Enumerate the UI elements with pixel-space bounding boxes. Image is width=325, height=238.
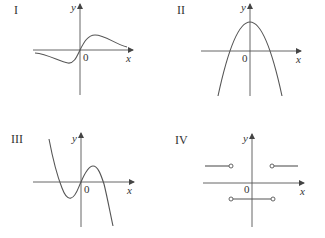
graph-I: I y x 0 bbox=[14, 1, 133, 95]
origin-label: 0 bbox=[242, 52, 248, 64]
graph-label: IV bbox=[175, 133, 188, 147]
graph-label: III bbox=[11, 132, 23, 146]
open-endpoint bbox=[270, 164, 274, 168]
graphs-figure: I y x 0 II y x 0 III y x 0 IV y x 0 bbox=[0, 0, 325, 238]
x-axis-label: x bbox=[295, 53, 301, 65]
y-axis-label: y bbox=[71, 132, 77, 144]
graph-II: II y x 0 bbox=[177, 1, 301, 96]
x-axis-label: x bbox=[126, 184, 132, 196]
graph-label: II bbox=[177, 3, 185, 17]
graph-III: III y x 0 bbox=[11, 132, 134, 227]
x-axis-label: x bbox=[299, 185, 305, 197]
open-endpoint bbox=[271, 197, 275, 201]
origin-label: 0 bbox=[244, 183, 250, 195]
curve bbox=[35, 35, 127, 63]
y-axis-label: y bbox=[242, 132, 248, 144]
y-axis-label: y bbox=[240, 1, 246, 13]
open-endpoint bbox=[229, 197, 233, 201]
origin-label: 0 bbox=[84, 183, 90, 195]
origin-label: 0 bbox=[83, 51, 89, 63]
y-axis-label: y bbox=[70, 1, 76, 13]
graph-IV: IV y x 0 bbox=[175, 132, 305, 227]
graph-label: I bbox=[14, 3, 18, 17]
x-axis-label: x bbox=[125, 52, 131, 64]
open-endpoint bbox=[229, 164, 233, 168]
